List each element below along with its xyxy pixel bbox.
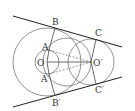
label-A-prime: A′ — [40, 74, 50, 84]
label-C: C — [95, 28, 102, 38]
upper-tangent-line — [13, 16, 122, 47]
lower-tangent-line — [13, 77, 122, 107]
label-B-prime: B′ — [52, 98, 61, 108]
label-A: A — [41, 42, 49, 52]
label-C-prime: C′ — [95, 85, 104, 95]
geometry-diagram: B C A O O′ A′ C′ B′ — [0, 0, 135, 111]
label-O: O — [37, 58, 44, 68]
diagram-canvas: B C A O O′ A′ C′ B′ — [0, 0, 135, 111]
label-B: B — [52, 17, 59, 27]
label-O-prime: O′ — [93, 58, 102, 68]
